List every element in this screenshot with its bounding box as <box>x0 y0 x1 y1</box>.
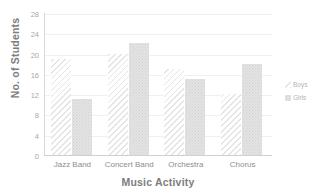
bar-boys-chorus <box>221 94 241 155</box>
legend-swatch-icon <box>285 95 291 101</box>
y-tick-label: 0 <box>35 152 39 161</box>
x-tick-label: Chorus <box>230 160 256 169</box>
y-tick-label: 4 <box>35 131 39 140</box>
x-tick-label: Jazz Band <box>54 160 91 169</box>
y-tick-label: 20 <box>31 50 39 59</box>
bar-girls-orchestra <box>185 79 205 155</box>
y-tick-label: 12 <box>31 91 39 100</box>
legend-item-girls[interactable]: Girls <box>285 91 322 104</box>
y-tick-label: 8 <box>35 111 39 120</box>
legend-swatch-icon <box>285 82 291 88</box>
bar-group <box>159 13 216 155</box>
bar-group <box>102 13 159 155</box>
x-tick-label: Concert Band <box>105 160 154 169</box>
bar-group <box>215 13 272 155</box>
x-axis-line <box>44 155 272 156</box>
bar-chart: No. of Students 0481216202428 Jazz BandC… <box>0 0 322 195</box>
chart-legend: BoysGirls <box>285 78 322 104</box>
bar-group <box>45 13 102 155</box>
bar-boys-orchestra <box>164 69 184 155</box>
legend-item-boys[interactable]: Boys <box>285 78 322 91</box>
y-axis-title: No. of Students <box>9 3 21 113</box>
y-tick-label: 16 <box>31 70 39 79</box>
y-tick-label: 24 <box>31 30 39 39</box>
legend-label: Boys <box>293 81 307 88</box>
bar-girls-chorus <box>242 64 262 155</box>
bars-layer <box>45 13 272 155</box>
x-axis-title: Music Activity <box>44 176 272 188</box>
bar-boys-concert-band <box>108 54 128 155</box>
plot-area: 0481216202428 <box>44 13 272 156</box>
x-tick-labels: Jazz BandConcert BandOrchestraChorus <box>44 160 272 174</box>
x-tick-label: Orchestra <box>168 160 203 169</box>
legend-label: Girls <box>293 94 306 101</box>
bar-boys-jazz-band <box>51 59 71 155</box>
bar-girls-jazz-band <box>72 99 92 155</box>
bar-girls-concert-band <box>129 43 149 155</box>
y-tick-label: 28 <box>31 10 39 19</box>
